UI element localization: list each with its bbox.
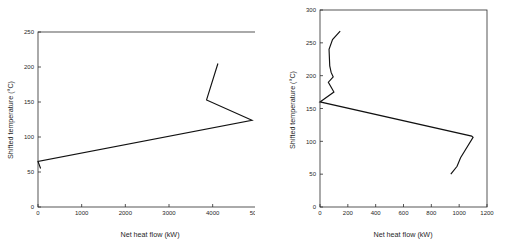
left-chart-svg: 0100020003000400050006000 05010015020025…: [0, 0, 255, 251]
chart-panel-left: 0100020003000400050006000 05010015020025…: [0, 0, 255, 251]
y-tick-label: 100: [306, 139, 317, 145]
y-tick-label: 250: [24, 29, 35, 35]
left-y-axis-ticks: 050100150200250: [24, 29, 41, 210]
left-plot-frame: [38, 32, 255, 207]
x-tick-label: 1000: [75, 210, 89, 216]
x-tick-label: 1200: [480, 210, 494, 216]
right-y-axis-ticks: 050100150200250300: [306, 7, 323, 210]
y-tick-label: 250: [306, 40, 317, 46]
left-y-axis-title: Shifted temperature (°C): [6, 81, 15, 159]
right-series-group: [320, 31, 473, 174]
x-tick-label: 0: [36, 210, 40, 216]
x-tick-label: 200: [343, 210, 354, 216]
right-x-axis-ticks: 020040060080010001200: [318, 204, 494, 216]
right-x-axis-title: Net heat flow (kW): [373, 230, 432, 239]
y-tick-label: 0: [31, 204, 35, 210]
series-line: [320, 31, 473, 174]
y-tick-label: 200: [306, 73, 317, 79]
series-line: [38, 64, 252, 169]
y-tick-label: 0: [313, 204, 317, 210]
x-tick-label: 4000: [206, 210, 220, 216]
left-x-axis-title: Net heat flow (kW): [120, 230, 179, 239]
y-tick-label: 300: [306, 7, 317, 13]
right-chart-svg: 020040060080010001200 050100150200250300…: [255, 0, 510, 251]
x-tick-label: 400: [371, 210, 382, 216]
y-tick-label: 50: [309, 171, 316, 177]
x-tick-label: 1000: [452, 210, 466, 216]
x-tick-label: 0: [318, 210, 322, 216]
y-tick-label: 200: [24, 64, 35, 70]
right-y-axis-title: Shifted temperature (°C): [288, 71, 297, 149]
x-tick-label: 800: [426, 210, 437, 216]
y-tick-label: 100: [24, 134, 35, 140]
right-plot-frame: [320, 10, 487, 207]
left-series-group: [38, 64, 252, 169]
chart-panel-right: 020040060080010001200 050100150200250300…: [255, 0, 510, 251]
y-tick-label: 50: [27, 169, 34, 175]
figure-container: 0100020003000400050006000 05010015020025…: [0, 0, 510, 251]
y-tick-label: 150: [306, 106, 317, 112]
x-tick-label: 2000: [119, 210, 133, 216]
left-x-axis-ticks: 0100020003000400050006000: [36, 204, 255, 216]
y-tick-label: 150: [24, 99, 35, 105]
x-tick-label: 600: [398, 210, 409, 216]
x-tick-label: 3000: [162, 210, 176, 216]
